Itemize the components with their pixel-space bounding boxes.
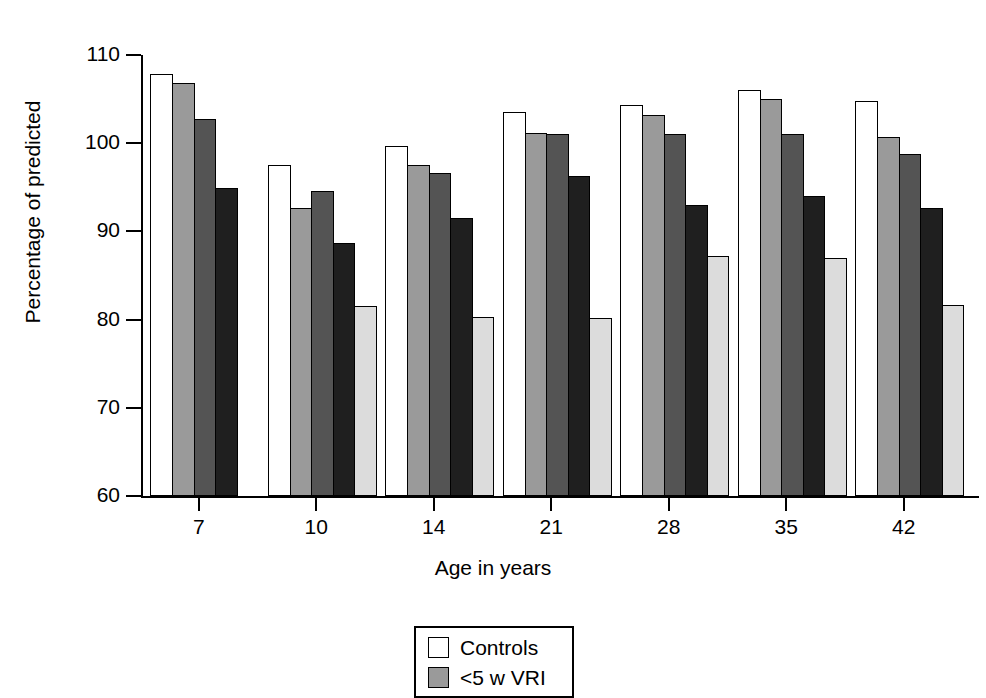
bar bbox=[503, 112, 526, 496]
x-tick bbox=[433, 498, 435, 511]
bar bbox=[824, 258, 847, 496]
bar bbox=[877, 137, 900, 496]
y-tick-label: 100 bbox=[68, 131, 120, 152]
x-axis-title: Age in years bbox=[0, 556, 986, 580]
bar bbox=[685, 205, 708, 496]
bar bbox=[172, 83, 195, 496]
bar bbox=[289, 208, 312, 496]
bar bbox=[802, 196, 825, 496]
y-tick-label: 80 bbox=[68, 308, 120, 329]
y-tick-label: 90 bbox=[68, 219, 120, 240]
bar bbox=[450, 218, 473, 496]
legend-swatch-icon bbox=[428, 637, 449, 658]
bar bbox=[898, 154, 921, 496]
bar bbox=[642, 115, 665, 496]
x-tick bbox=[668, 498, 670, 511]
x-tick bbox=[903, 498, 905, 511]
x-tick-label: 7 bbox=[164, 515, 234, 539]
bar bbox=[215, 188, 238, 496]
y-tick bbox=[126, 495, 141, 497]
bar bbox=[332, 243, 355, 496]
x-tick-label: 10 bbox=[281, 515, 351, 539]
x-tick-label: 14 bbox=[399, 515, 469, 539]
bar bbox=[920, 208, 943, 496]
x-tick-label: 35 bbox=[751, 515, 821, 539]
bar bbox=[150, 74, 173, 496]
x-tick-label: 42 bbox=[869, 515, 939, 539]
bar bbox=[385, 146, 408, 496]
bar bbox=[941, 305, 964, 496]
x-tick-label: 28 bbox=[634, 515, 704, 539]
bar bbox=[311, 191, 334, 496]
bar bbox=[407, 165, 430, 496]
x-tick bbox=[785, 498, 787, 511]
y-tick-label: 110 bbox=[68, 43, 120, 64]
legend-item: Controls bbox=[428, 636, 562, 659]
x-tick bbox=[550, 498, 552, 511]
x-tick-label: 21 bbox=[516, 515, 586, 539]
y-tick bbox=[126, 142, 141, 144]
bar bbox=[706, 256, 729, 496]
bar bbox=[546, 134, 569, 497]
x-tick bbox=[198, 498, 200, 511]
bar bbox=[738, 90, 761, 496]
y-tick bbox=[126, 230, 141, 232]
bar bbox=[268, 165, 291, 496]
bar bbox=[471, 317, 494, 496]
bar bbox=[589, 318, 612, 496]
legend-swatch-icon bbox=[428, 667, 449, 688]
legend-label: Controls bbox=[460, 637, 538, 658]
legend-item: <5 w VRI bbox=[428, 666, 562, 689]
bar bbox=[193, 119, 216, 496]
y-tick-label: 60 bbox=[68, 484, 120, 505]
bar bbox=[524, 133, 547, 496]
y-tick bbox=[126, 319, 141, 321]
x-axis-line bbox=[141, 496, 979, 498]
bar bbox=[759, 99, 782, 496]
y-tick bbox=[126, 407, 141, 409]
bar bbox=[354, 306, 377, 496]
bar bbox=[781, 134, 804, 496]
bar bbox=[855, 101, 878, 496]
chart-legend: Controls<5 w VRI bbox=[414, 626, 574, 698]
plot-area bbox=[141, 55, 979, 496]
bar bbox=[567, 176, 590, 496]
y-axis-title: Percentage of predicted bbox=[21, 12, 45, 412]
y-tick-label: 70 bbox=[68, 396, 120, 417]
bar bbox=[428, 173, 451, 496]
legend-label: <5 w VRI bbox=[460, 667, 546, 688]
bar bbox=[663, 134, 686, 496]
bar bbox=[620, 105, 643, 496]
y-tick bbox=[126, 54, 141, 56]
x-tick bbox=[315, 498, 317, 511]
